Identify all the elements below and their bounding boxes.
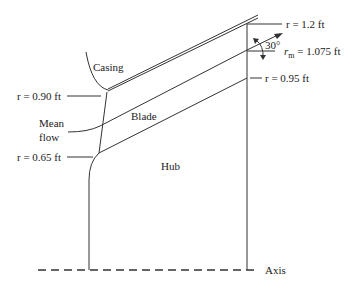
casing-line-outer (108, 15, 258, 89)
r-inlet-hub-label: r = 0.65 ft (17, 151, 61, 163)
angle-arrow-bottom-icon (260, 55, 266, 60)
hub-inlet-contour (89, 153, 99, 270)
mean-flow-label-2: flow (39, 131, 59, 143)
turbine-flow-diagram: Casing Blade Hub Mean flow Axis 30° r = … (0, 0, 354, 288)
casing-line-inner (108, 18, 258, 91)
angle-label: 30° (265, 39, 280, 51)
axis-label: Axis (265, 264, 286, 276)
hub-label: Hub (161, 160, 180, 172)
blade-label: Blade (131, 110, 157, 122)
mean-flow-label-1: Mean (39, 117, 65, 129)
r-tip-label: r = 1.2 ft (286, 18, 325, 30)
casing-label: Casing (93, 61, 124, 73)
angle-arrow-top-icon (253, 38, 259, 44)
r-inlet-tip-label: r = 0.90 ft (17, 90, 61, 102)
r-hub-exit-label: r = 0.95 ft (265, 72, 309, 84)
r-mean-label: rm = 1.075 ft (284, 45, 340, 60)
